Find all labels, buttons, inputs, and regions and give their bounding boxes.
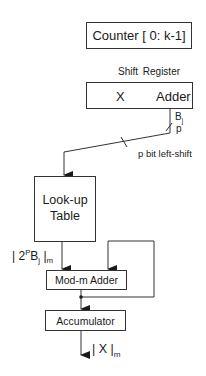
shift-register-box: X Adder — [86, 82, 193, 109]
bus-width-label-p: p — [176, 124, 182, 134]
lookup-table-line2: Table — [50, 209, 80, 225]
mod-m-adder-label: Mod-m Adder — [55, 274, 118, 286]
accumulator-label: Accumulator — [56, 315, 114, 327]
accumulator-box: Accumulator — [45, 310, 126, 331]
shift-label: p bit left-shift — [138, 149, 192, 159]
bus-width-label-bj: Bj — [175, 112, 183, 122]
lookup-table-box: Look-up Table — [34, 176, 96, 242]
counter-label: Counter [ 0: k-1] — [92, 28, 185, 43]
output-label: | X |m — [92, 343, 121, 356]
register-field-x: X — [116, 89, 125, 104]
bus-width-slash — [166, 123, 172, 131]
shift-register-title: Shift Register — [118, 67, 180, 77]
counter-box: Counter [ 0: k-1] — [86, 22, 192, 49]
lut-output-label: | 2PBj |m — [12, 250, 53, 262]
junction-dot — [79, 295, 83, 299]
mod-m-adder-box: Mod-m Adder — [46, 270, 127, 290]
lookup-table-line1: Look-up — [42, 193, 87, 209]
register-field-adder: Adder — [156, 89, 191, 104]
